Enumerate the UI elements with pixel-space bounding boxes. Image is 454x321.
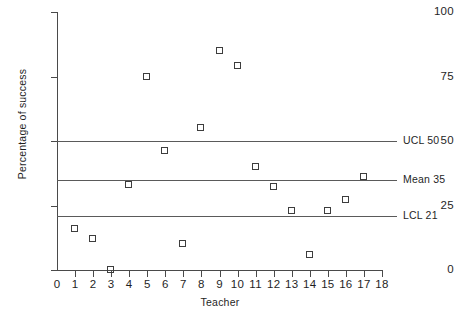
x-tick-mark xyxy=(201,271,202,277)
x-tick-mark xyxy=(274,271,275,277)
y-tick-mark xyxy=(51,12,57,13)
x-tick-mark xyxy=(165,271,166,277)
y-tick-mark xyxy=(51,77,57,78)
x-tick-mark xyxy=(147,271,148,277)
reference-label-ucl: UCL 50 xyxy=(403,135,439,146)
data-point-marker xyxy=(342,196,349,203)
x-axis-title: Teacher xyxy=(57,296,383,308)
y-tick-label: 100 xyxy=(412,6,454,18)
x-tick-mark xyxy=(292,271,293,277)
data-point-marker xyxy=(71,225,78,232)
data-point-marker xyxy=(197,124,204,131)
x-tick-mark xyxy=(364,271,365,277)
data-point-marker xyxy=(360,173,367,180)
y-tick-label: 75 xyxy=(412,71,454,83)
y-tick-mark xyxy=(51,206,57,207)
reference-label-mean: Mean 35 xyxy=(403,174,445,185)
data-point-marker xyxy=(216,47,223,54)
y-tick-label: 0 xyxy=(412,264,454,276)
x-tick-mark xyxy=(220,271,221,277)
data-point-marker xyxy=(234,62,241,69)
x-tick-mark xyxy=(310,271,311,277)
x-tick-mark xyxy=(328,271,329,277)
reference-line-mean xyxy=(57,180,397,181)
x-tick-label: 18 xyxy=(370,279,394,291)
x-tick-mark xyxy=(256,271,257,277)
data-point-marker xyxy=(89,235,96,242)
data-point-marker xyxy=(270,183,277,190)
x-tick-mark xyxy=(382,271,383,277)
reference-line-lcl xyxy=(57,216,397,217)
data-point-marker xyxy=(125,181,132,188)
data-point-marker xyxy=(252,163,259,170)
reference-line-ucl xyxy=(57,141,397,142)
x-tick-mark xyxy=(75,271,76,277)
reference-label-lcl: LCL 21 xyxy=(403,210,438,221)
x-tick-mark xyxy=(183,271,184,277)
data-point-marker xyxy=(288,207,295,214)
data-point-marker xyxy=(143,73,150,80)
x-tick-mark xyxy=(346,271,347,277)
x-tick-mark xyxy=(129,271,130,277)
data-point-marker xyxy=(161,147,168,154)
data-point-marker xyxy=(306,251,313,258)
data-point-marker xyxy=(179,240,186,247)
data-point-marker xyxy=(107,266,114,273)
x-tick-mark xyxy=(238,271,239,277)
y-axis-title: Percentage of success xyxy=(16,44,28,204)
control-chart: 0255075100 0123456789101112131415161718 … xyxy=(0,0,454,321)
data-point-marker xyxy=(324,207,331,214)
y-tick-mark xyxy=(51,270,57,271)
x-tick-mark xyxy=(93,271,94,277)
